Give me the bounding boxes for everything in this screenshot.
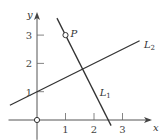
y-tick-label: 3 bbox=[26, 30, 32, 41]
y-axis-label: y bbox=[26, 9, 33, 20]
x-tick-label: 3 bbox=[119, 124, 125, 135]
x-tick-label: 1 bbox=[62, 124, 68, 135]
points bbox=[34, 33, 68, 123]
line-label-l1: L1 bbox=[99, 87, 111, 100]
line-label-subscript: 2 bbox=[151, 44, 155, 52]
line-label-l2: L2 bbox=[143, 39, 155, 52]
labels: xy123123L1L2P bbox=[26, 9, 159, 135]
line-label-subscript: 1 bbox=[106, 92, 110, 100]
point-origin bbox=[34, 117, 39, 122]
x-axis-label: x bbox=[153, 122, 159, 133]
y-tick-label: 2 bbox=[26, 58, 32, 69]
ticks bbox=[37, 35, 123, 120]
point-label-p: P bbox=[70, 28, 78, 39]
x-tick-label: 2 bbox=[91, 124, 97, 135]
point-p bbox=[63, 33, 68, 38]
y-tick-label: 1 bbox=[26, 87, 32, 98]
coordinate-diagram: xy123123L1L2P bbox=[0, 0, 166, 140]
